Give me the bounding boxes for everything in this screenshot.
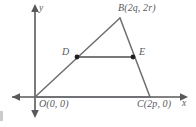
y-axis-label: y: [39, 4, 43, 14]
label-vertex-c: C(2p, 0): [137, 99, 171, 109]
y-axis-arrow-down: [31, 110, 39, 118]
geometry-figure: B(2q, 2r) D E O(0, 0) C(2p, 0) x y: [0, 0, 196, 127]
x-axis-arrow-left: [12, 93, 20, 101]
page-edge-artifact: [0, 111, 3, 121]
point-e-dot: [131, 55, 136, 60]
label-vertex-b: B(2q, 2r): [118, 3, 156, 13]
point-d-dot: [75, 55, 80, 60]
label-point-d: D: [62, 47, 69, 57]
x-axis-label: x: [182, 99, 186, 109]
label-point-e: E: [139, 47, 145, 57]
y-axis-arrow-up: [31, 4, 39, 12]
label-vertex-o: O(0, 0): [39, 99, 69, 109]
